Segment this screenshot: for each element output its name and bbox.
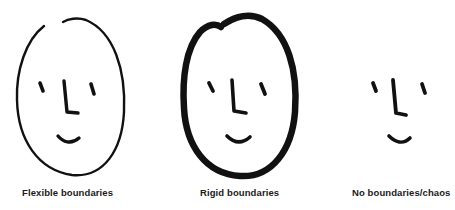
face-rigid — [184, 16, 296, 176]
right-eye-icon — [261, 84, 265, 94]
right-eye-icon — [422, 84, 425, 93]
face-no-boundaries — [373, 80, 425, 142]
right-eye-icon — [91, 84, 94, 94]
head-outline-rigid — [184, 16, 296, 176]
label-rigid-boundaries: Rigid boundaries — [200, 187, 279, 198]
boundaries-figure: Flexible boundaries Rigid boundaries No … — [0, 0, 455, 210]
left-eye-icon — [373, 83, 376, 91]
nose-icon — [232, 80, 246, 113]
left-eye-icon — [209, 83, 213, 91]
nose-icon — [393, 80, 406, 115]
head-outline-flexible — [17, 19, 124, 176]
left-eye-icon — [40, 83, 43, 91]
mouth-icon — [227, 136, 250, 142]
mouth-icon — [58, 136, 79, 142]
label-flexible-boundaries: Flexible boundaries — [22, 187, 113, 198]
nose-icon — [64, 81, 78, 113]
face-flexible — [17, 19, 124, 176]
label-no-boundaries: No boundaries/chaos — [352, 187, 451, 198]
mouth-icon — [389, 136, 410, 142]
faces-illustration — [0, 0, 455, 210]
